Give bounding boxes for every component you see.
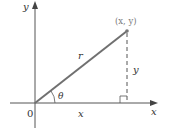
polar-coordinates-diagram: y x 0 (x, y) r θ x y bbox=[0, 0, 172, 137]
point-marker bbox=[125, 29, 129, 33]
radius-label: r bbox=[78, 50, 84, 61]
y-axis-label: y bbox=[22, 1, 29, 12]
angle-label: θ bbox=[58, 91, 64, 101]
right-angle-marker bbox=[120, 96, 127, 103]
origin-label: 0 bbox=[27, 108, 33, 119]
point-label: (x, y) bbox=[115, 16, 137, 26]
x-axis-label: x bbox=[151, 106, 157, 117]
angle-arc bbox=[51, 91, 55, 103]
horizontal-leg-label: x bbox=[78, 108, 84, 119]
vertical-leg-label: y bbox=[132, 64, 139, 75]
y-axis-arrow-icon bbox=[32, 1, 38, 9]
radius-line bbox=[35, 31, 127, 103]
